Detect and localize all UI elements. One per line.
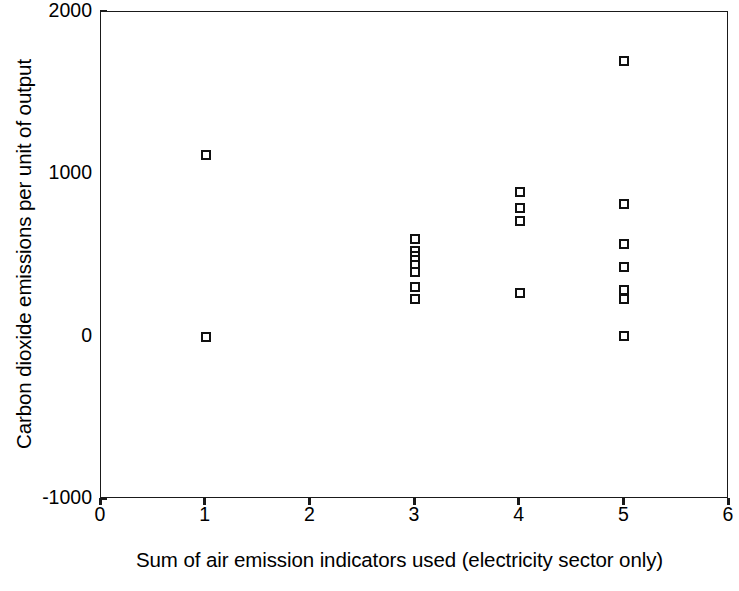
data-point — [515, 216, 525, 226]
x-tick-label: 3 — [394, 505, 434, 525]
data-point — [410, 294, 420, 304]
data-point — [619, 199, 629, 209]
data-point — [410, 234, 420, 244]
y-tick-label: 1000 — [0, 163, 92, 183]
plot-area — [100, 11, 728, 498]
data-point — [619, 285, 629, 295]
data-point — [201, 150, 211, 160]
data-point — [619, 294, 629, 304]
x-tick-mark — [517, 498, 520, 505]
x-tick-label: 6 — [708, 505, 739, 525]
data-point — [515, 187, 525, 197]
x-tick-mark — [727, 498, 730, 505]
scatter-chart-figure: Carbon dioxide emissions per unit of out… — [0, 0, 739, 591]
data-point — [515, 288, 525, 298]
data-point — [619, 331, 629, 341]
x-tick-label: 1 — [185, 505, 225, 525]
y-tick-label: 0 — [0, 326, 92, 346]
x-tick-mark — [99, 498, 102, 505]
data-point — [410, 282, 420, 292]
x-axis-title: Sum of air emission indicators used (ele… — [60, 548, 739, 572]
x-tick-mark — [308, 498, 311, 505]
x-tick-label: 0 — [80, 505, 120, 525]
x-tick-label: 5 — [603, 505, 643, 525]
x-tick-mark — [203, 498, 206, 505]
data-point — [619, 56, 629, 66]
x-tick-mark — [622, 498, 625, 505]
x-tick-label: 2 — [289, 505, 329, 525]
data-point — [619, 262, 629, 272]
data-point — [619, 239, 629, 249]
data-point — [201, 332, 211, 342]
y-tick-label: -1000 — [0, 488, 92, 508]
data-point — [410, 267, 420, 277]
x-tick-mark — [413, 498, 416, 505]
y-axis-title: Carbon dioxide emissions per unit of out… — [8, 4, 40, 504]
data-point — [515, 203, 525, 213]
x-tick-label: 4 — [499, 505, 539, 525]
y-tick-label: 2000 — [0, 1, 92, 21]
